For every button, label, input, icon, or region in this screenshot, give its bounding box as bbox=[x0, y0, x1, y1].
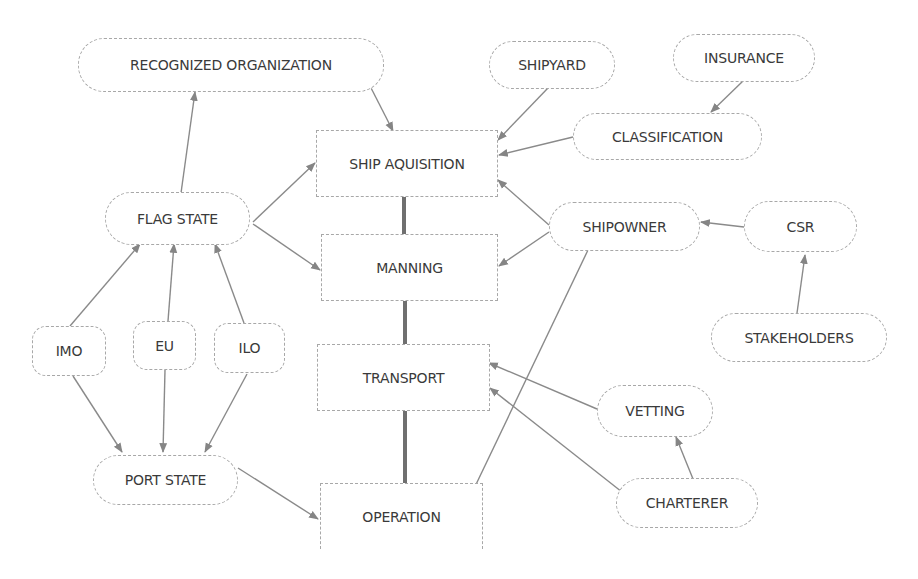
node-csr: CSR bbox=[744, 201, 857, 252]
edge-shipowner-to-manning bbox=[499, 232, 549, 266]
edge-imo-to-flag-state bbox=[70, 244, 140, 326]
edge-classification-to-ship-aquisition bbox=[499, 137, 573, 155]
edge-recognized-organization-to-ship-aquisition bbox=[368, 82, 393, 131]
node-vetting: VETTING bbox=[597, 385, 713, 437]
edge-csr-to-shipowner bbox=[701, 222, 744, 227]
edge-vetting-to-transport bbox=[489, 363, 597, 409]
node-ilo: ILO bbox=[214, 323, 285, 373]
edge-flag-state-to-recognized-organization bbox=[181, 92, 195, 193]
edge-flag-state-to-manning bbox=[253, 224, 320, 270]
edge-ilo-to-port-state bbox=[205, 374, 247, 452]
node-flag-state: FLAG STATE bbox=[105, 192, 250, 245]
node-eu: EU bbox=[133, 321, 196, 370]
edge-insurance-to-classification bbox=[711, 81, 743, 112]
edge-eu-to-flag-state bbox=[168, 244, 174, 321]
edge-shipyard-to-ship-aquisition bbox=[498, 88, 548, 140]
edge-charterer-to-vetting bbox=[676, 437, 693, 479]
node-manning: MANNING bbox=[321, 234, 498, 301]
node-port-state: PORT STATE bbox=[93, 455, 238, 505]
node-operation: OPERATION bbox=[320, 483, 483, 549]
diagram-canvas: RECOGNIZED ORGANIZATION SHIPYARD INSURAN… bbox=[0, 0, 918, 579]
edge-stakeholders-to-csr bbox=[797, 255, 805, 313]
edge-flag-state-to-ship-aquisition bbox=[253, 163, 315, 222]
node-stakeholders: STAKEHOLDERS bbox=[711, 313, 887, 362]
node-insurance: INSURANCE bbox=[673, 34, 815, 82]
node-shipyard: SHIPYARD bbox=[489, 41, 615, 89]
node-shipowner: SHIPOWNER bbox=[549, 202, 700, 251]
edge-shipowner-to-ship-aquisition bbox=[498, 180, 549, 225]
edge-imo-to-port-state bbox=[73, 376, 122, 452]
node-transport: TRANSPORT bbox=[317, 344, 490, 411]
node-imo: IMO bbox=[32, 326, 106, 376]
edge-port-state-to-operation bbox=[238, 468, 318, 519]
edge-ilo-to-flag-state bbox=[215, 244, 244, 323]
node-charterer: CHARTERER bbox=[616, 478, 758, 528]
node-ship-aquisition: SHIP AQUISITION bbox=[316, 130, 498, 197]
node-recognized-organization: RECOGNIZED ORGANIZATION bbox=[78, 38, 384, 92]
node-classification: CLASSIFICATION bbox=[573, 113, 762, 160]
edge-eu-to-port-state bbox=[163, 370, 165, 452]
